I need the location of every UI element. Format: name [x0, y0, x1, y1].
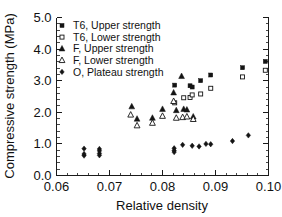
y-tick-label: 5.0 — [33, 10, 51, 25]
data-point — [129, 103, 135, 109]
legend-marker-open-triangle — [59, 57, 65, 63]
data-point — [241, 66, 245, 70]
legend-entry-4: O, Plateau strength — [60, 66, 164, 78]
data-point — [128, 112, 134, 118]
x-tick-label: 0.08 — [150, 179, 175, 194]
scatter-chart: 0.060.070.080.090.100.01.02.03.04.05.0 T… — [0, 0, 282, 217]
figure-container: 0.060.070.080.090.100.01.02.03.04.05.0 T… — [0, 0, 282, 217]
data-point — [190, 85, 194, 89]
data-point — [184, 113, 190, 119]
legend-marker-open-square — [60, 35, 64, 39]
series-0 — [173, 59, 268, 89]
legend-label: F, Lower strength — [73, 54, 154, 66]
data-point — [241, 75, 245, 79]
y-tick-label: 1.0 — [33, 136, 51, 151]
legend-entry-1: T6, Lower strength — [60, 31, 161, 43]
data-point — [246, 133, 250, 138]
series-3 — [128, 98, 196, 128]
y-tick-label: 4.0 — [33, 42, 51, 57]
data-point — [190, 143, 194, 148]
data-point — [150, 120, 156, 126]
legend-label: T6, Upper strength — [73, 19, 161, 31]
legend-label: F, Upper strength — [73, 42, 154, 54]
data-point — [82, 146, 86, 151]
data-point — [263, 68, 267, 72]
y-tick-label: 3.0 — [33, 73, 51, 88]
series-4 — [82, 133, 251, 159]
y-tick-label: 0.0 — [33, 168, 51, 183]
data-point — [209, 142, 213, 147]
legend-marker-filled-square — [60, 24, 64, 28]
data-point — [209, 86, 213, 90]
x-tick-label: 0.10 — [256, 179, 281, 194]
data-point — [263, 59, 267, 63]
data-point — [230, 138, 234, 143]
data-point — [173, 107, 179, 113]
data-point — [190, 93, 194, 97]
series-1 — [173, 68, 268, 105]
legend-entry-0: T6, Upper strength — [60, 19, 161, 31]
legend-entry-2: F, Upper strength — [59, 42, 154, 54]
x-tick-label: 0.09 — [203, 179, 228, 194]
legend-marker-filled-triangle — [59, 45, 65, 51]
data-point — [173, 115, 179, 121]
data-point — [182, 96, 186, 100]
data-point — [134, 116, 140, 122]
legend-marker-filled-diamond — [60, 69, 64, 74]
data-point — [160, 113, 166, 119]
data-point — [173, 83, 177, 87]
y-tick-label: 2.0 — [33, 105, 51, 120]
data-point — [179, 73, 185, 79]
y-axis-title: Compressive strength (MPa) — [2, 13, 17, 178]
x-tick-label: 0.07 — [97, 179, 122, 194]
data-point — [199, 92, 203, 96]
data-point — [199, 79, 203, 83]
data-point — [134, 122, 140, 128]
data-point — [197, 144, 201, 149]
legend-label: T6, Lower strength — [73, 31, 161, 43]
x-axis-title: Relative density — [116, 198, 208, 213]
legend-label: O, Plateau strength — [73, 66, 164, 78]
data-point — [180, 142, 184, 147]
legend-entry-3: F, Lower strength — [59, 54, 154, 66]
chart-legend: T6, Upper strengthT6, Lower strengthF, U… — [59, 19, 164, 77]
data-point — [209, 73, 213, 77]
data-point — [171, 89, 177, 95]
data-point — [160, 106, 166, 112]
data-point — [204, 141, 208, 146]
